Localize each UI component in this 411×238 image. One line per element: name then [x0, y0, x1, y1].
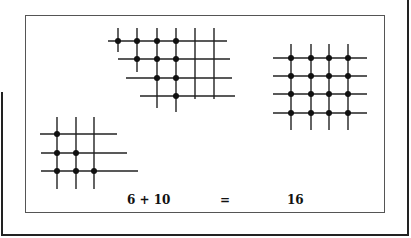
top-staircase-grid	[108, 28, 235, 112]
equation-equals-sign: =	[220, 193, 230, 207]
equation-result: 16	[287, 193, 304, 207]
top-grid-dots	[115, 38, 179, 99]
equation-left-term: 6 + 10	[127, 193, 170, 207]
right-square-grid	[273, 44, 367, 130]
right-grid-dots	[288, 55, 351, 116]
lattice-diagram	[0, 0, 411, 238]
